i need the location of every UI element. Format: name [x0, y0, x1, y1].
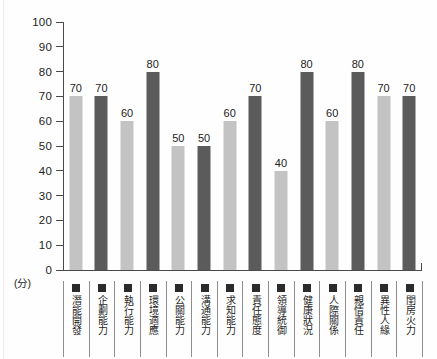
bar-value-label: 60 — [224, 107, 236, 119]
bar — [300, 72, 313, 270]
category-swatch-icon — [98, 284, 106, 292]
bar — [377, 96, 390, 270]
y-axis-tick-label: 40 — [39, 165, 52, 177]
y-axis-tick: 30 — [0, 190, 63, 202]
category-label: 企劃能力 — [96, 295, 107, 335]
y-axis-tick-mark — [56, 220, 63, 221]
category-swatch-icon — [354, 284, 362, 292]
y-axis-tick: 40 — [0, 165, 63, 177]
category-cell: 閨房火力 — [397, 281, 423, 357]
y-axis-tick-mark — [56, 195, 63, 196]
bar — [326, 121, 339, 270]
category-label: 潛能開發 — [71, 295, 82, 335]
y-axis-tick-label: 60 — [39, 115, 52, 127]
category-cell: 公關能力 — [167, 281, 193, 357]
bar — [403, 96, 416, 270]
y-axis-tick-mark — [56, 96, 63, 97]
x-axis-line — [63, 270, 422, 271]
bar-slot: 70 — [396, 22, 422, 270]
category-label: 環境適應 — [148, 295, 159, 335]
category-cell: 環境適應 — [141, 281, 167, 357]
y-axis-tick: 0 — [0, 264, 63, 276]
y-axis-tick: 80 — [0, 66, 63, 78]
category-cell: 潛能開發 — [64, 281, 90, 357]
category-swatch-icon — [329, 284, 337, 292]
y-axis-tick-label: 100 — [32, 16, 52, 28]
category-swatch-icon — [406, 284, 414, 292]
category-label: 閨房火力 — [404, 295, 415, 335]
y-axis-tick-label: 0 — [45, 264, 52, 276]
bar-slot: 80 — [345, 22, 371, 270]
category-label: 親情責任 — [353, 295, 364, 335]
category-swatch-icon — [380, 284, 388, 292]
y-axis-tick-label: 70 — [39, 90, 52, 102]
y-axis-tick-mark — [56, 71, 63, 72]
y-axis-tick-mark — [56, 245, 63, 246]
y-axis-tick-label: 20 — [39, 214, 52, 226]
bar-value-label: 60 — [326, 107, 338, 119]
bar — [249, 96, 262, 270]
bar-slot: 70 — [243, 22, 269, 270]
bar-value-label: 80 — [147, 58, 159, 70]
category-cell: 求知能力 — [218, 281, 244, 357]
bar — [223, 121, 236, 270]
bar-value-label: 70 — [70, 82, 82, 94]
category-cell: 企劃能力 — [90, 281, 116, 357]
category-swatch-icon — [124, 284, 132, 292]
y-axis-tick: 60 — [0, 115, 63, 127]
bar-value-label: 50 — [198, 132, 210, 144]
category-label: 執行能力 — [122, 295, 133, 335]
y-axis-tick: 10 — [0, 239, 63, 251]
bar-slot: 50 — [191, 22, 217, 270]
bar — [274, 171, 287, 270]
bar-slot: 60 — [217, 22, 243, 270]
category-swatch-icon — [226, 284, 234, 292]
category-cell: 責任態度 — [243, 281, 269, 357]
category-legend-table: 潛能開發企劃能力執行能力環境適應公關能力溝通能力求知能力責任態度領導統御健康狀況… — [63, 281, 423, 357]
category-label: 公關能力 — [173, 295, 184, 335]
y-axis-tick: 90 — [0, 41, 63, 53]
category-swatch-icon — [201, 284, 209, 292]
bar-slot: 70 — [89, 22, 115, 270]
category-label: 健康狀況 — [302, 295, 313, 335]
bar-value-label: 70 — [95, 82, 107, 94]
category-label: 求知能力 — [225, 295, 236, 335]
y-axis-tick-mark — [56, 270, 63, 271]
y-axis-tick-label: 80 — [39, 66, 52, 78]
category-swatch-icon — [252, 284, 260, 292]
category-label: 人際關係 — [327, 295, 338, 335]
bar-slot: 60 — [319, 22, 345, 270]
bar-chart: 1009080706050403020100 (分) 7070608050506… — [0, 0, 437, 359]
bar — [198, 146, 211, 270]
bar-value-label: 70 — [249, 82, 261, 94]
category-cell: 執行能力 — [115, 281, 141, 357]
y-axis-tick: 70 — [0, 90, 63, 102]
bar-slot: 50 — [166, 22, 192, 270]
category-swatch-icon — [72, 284, 80, 292]
category-cell: 健康狀況 — [295, 281, 321, 357]
y-axis-tick: 50 — [0, 140, 63, 152]
category-swatch-icon — [277, 284, 285, 292]
category-label: 異性人緣 — [379, 295, 390, 335]
category-cell: 溝通能力 — [192, 281, 218, 357]
bar-value-label: 80 — [300, 58, 312, 70]
category-label: 溝通能力 — [199, 295, 210, 335]
y-axis-tick: 20 — [0, 214, 63, 226]
category-cell: 人際關係 — [320, 281, 346, 357]
bar — [172, 146, 185, 270]
category-swatch-icon — [303, 284, 311, 292]
bar-slot: 70 — [371, 22, 397, 270]
category-swatch-icon — [175, 284, 183, 292]
bar-slot: 80 — [294, 22, 320, 270]
bar — [121, 121, 134, 270]
bar — [95, 96, 108, 270]
chart-page: 1009080706050403020100 (分) 7070608050506… — [0, 0, 437, 359]
bar — [69, 96, 82, 270]
category-cell: 異性人緣 — [372, 281, 398, 357]
y-axis-tick-mark — [56, 121, 63, 122]
bar-slot: 40 — [268, 22, 294, 270]
bar-slot: 70 — [63, 22, 89, 270]
category-label: 責任態度 — [250, 295, 261, 335]
bar-value-label: 80 — [352, 58, 364, 70]
y-axis-unit-label: (分) — [14, 275, 31, 290]
